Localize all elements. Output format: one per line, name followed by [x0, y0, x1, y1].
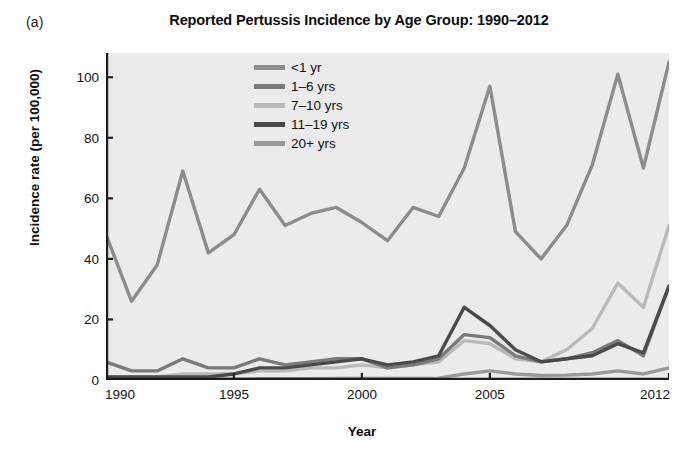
legend-swatch-icon: [254, 141, 285, 146]
x-tick-label: 2005: [475, 387, 505, 402]
x-tick-label: 1990: [105, 387, 135, 402]
legend-label: 7–10 yrs: [291, 99, 343, 113]
series-line: [106, 286, 669, 377]
legend-label: <1 yr: [291, 61, 321, 75]
plot-area: 020406080100 19901995200020052012 <1 yr1…: [106, 53, 669, 380]
legend-swatch-icon: [254, 122, 285, 127]
series-line: [106, 62, 669, 301]
legend: <1 yr1–6 yrs7–10 yrs11–19 yrs20+ yrs: [254, 61, 349, 151]
x-tick-label: 2000: [347, 387, 377, 402]
y-tick-label: 0: [91, 373, 99, 388]
legend-item: 7–10 yrs: [254, 99, 349, 113]
legend-label: 11–19 yrs: [291, 118, 349, 132]
figure-root: (a) Reported Pertussis Incidence by Age …: [0, 0, 684, 454]
x-tick-label: 2012: [640, 387, 670, 402]
x-axis-label: Year: [0, 424, 684, 439]
legend-swatch-icon: [254, 103, 285, 108]
x-tick-label: 1995: [219, 387, 249, 402]
legend-label: 1–6 yrs: [291, 80, 335, 94]
chart-title: Reported Pertussis Incidence by Age Grou…: [0, 12, 684, 28]
plot-svg: [106, 53, 669, 380]
y-tick-label: 60: [84, 191, 99, 206]
y-tick-label: 20: [84, 312, 99, 327]
legend-swatch-icon: [254, 65, 285, 70]
y-tick-label: 80: [84, 130, 99, 145]
y-tick-label: 100: [76, 70, 99, 85]
legend-item: 11–19 yrs: [254, 118, 349, 132]
legend-item: <1 yr: [254, 61, 349, 75]
legend-item: 1–6 yrs: [254, 80, 349, 94]
legend-item: 20+ yrs: [254, 137, 349, 151]
legend-swatch-icon: [254, 84, 285, 89]
legend-label: 20+ yrs: [291, 137, 336, 151]
y-tick-label: 40: [84, 251, 99, 266]
y-axis-label: Incidence rate (per 100,000): [27, 28, 42, 288]
